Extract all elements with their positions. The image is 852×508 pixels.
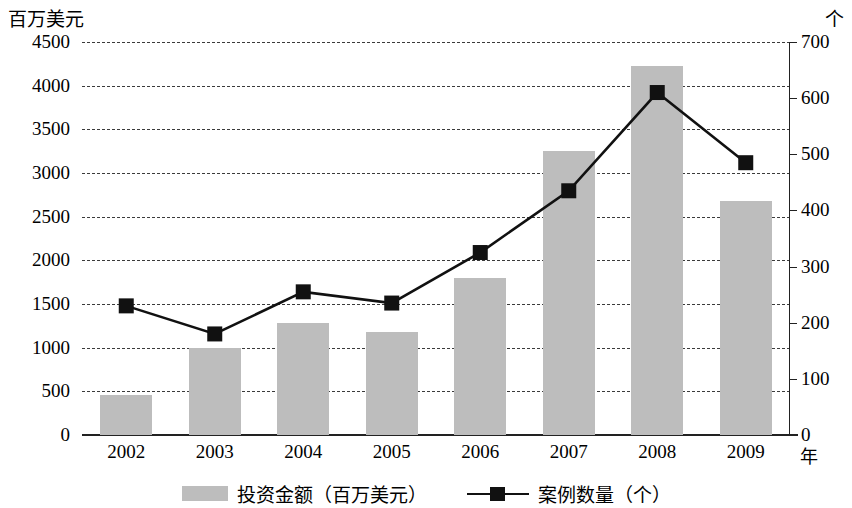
right-axis-tick-mark	[789, 267, 797, 268]
line-path	[126, 93, 746, 334]
chart-legend: 投资金额（百万美元） 案例数量（个）	[0, 480, 852, 507]
line-marker	[384, 296, 399, 311]
left-axis-tick-label: 1500	[8, 294, 70, 313]
right-axis-tick-label: 300	[801, 257, 852, 276]
right-axis-tick-label: 400	[801, 200, 852, 219]
x-axis-tick-label: 2003	[175, 442, 255, 461]
x-axis-tick-label: 2005	[352, 442, 432, 461]
left-axis-tick-label: 4000	[8, 76, 70, 95]
left-axis-tick-label: 2500	[8, 207, 70, 226]
line-marker	[738, 155, 753, 170]
line-series	[82, 42, 790, 435]
right-axis-unit-label: 个	[825, 4, 844, 31]
legend-item-bar: 投资金额（百万美元）	[182, 480, 427, 507]
right-axis-tick-mark	[789, 98, 797, 99]
line-marker	[207, 326, 222, 341]
right-axis-tick-label: 200	[801, 313, 852, 332]
line-marker	[473, 245, 488, 260]
left-axis-tick-label: 2000	[8, 250, 70, 269]
right-axis-tick-mark	[789, 42, 797, 43]
left-axis-tick-label: 3000	[8, 163, 70, 182]
x-axis-tick-label: 2009	[706, 442, 786, 461]
line-marker	[119, 298, 134, 313]
left-axis-unit-label: 百万美元	[8, 4, 84, 31]
x-axis-tick-label: 2006	[440, 442, 520, 461]
right-axis-tick-mark	[789, 210, 797, 211]
bar-swatch-icon	[182, 486, 228, 501]
right-axis-tick-label: 100	[801, 369, 852, 388]
x-axis-tick-label: 2007	[529, 442, 609, 461]
x-axis-unit-label: 年	[800, 442, 818, 468]
right-axis-tick-label: 600	[801, 88, 852, 107]
left-axis-tick-label: 3500	[8, 119, 70, 138]
x-axis-tick-label: 2002	[86, 442, 166, 461]
right-axis-tick-mark	[789, 379, 797, 380]
legend-label-bar: 投资金额（百万美元）	[237, 480, 427, 507]
right-axis-tick-mark	[789, 154, 797, 155]
right-axis-tick-mark	[789, 323, 797, 324]
line-marker	[561, 183, 576, 198]
left-axis-tick-label: 0	[8, 425, 70, 444]
line-marker	[650, 85, 665, 100]
legend-item-line: 案例数量（个）	[467, 480, 671, 507]
left-axis-tick-label: 1000	[8, 338, 70, 357]
right-axis-tick-label: 500	[801, 144, 852, 163]
x-axis-tick-label: 2004	[263, 442, 343, 461]
right-axis-tick-label: 700	[801, 32, 852, 51]
plot-area	[82, 42, 790, 435]
x-axis-tick-label: 2008	[617, 442, 697, 461]
right-axis-tick-label: 0	[801, 425, 852, 444]
chart-figure: 百万美元 个 年 4500400035003000250020001500100…	[0, 0, 852, 508]
line-marker-swatch-icon	[467, 486, 529, 502]
left-axis-tick-label: 500	[8, 381, 70, 400]
line-marker	[296, 284, 311, 299]
legend-label-line: 案例数量（个）	[538, 480, 671, 507]
left-axis-tick-label: 4500	[8, 32, 70, 51]
